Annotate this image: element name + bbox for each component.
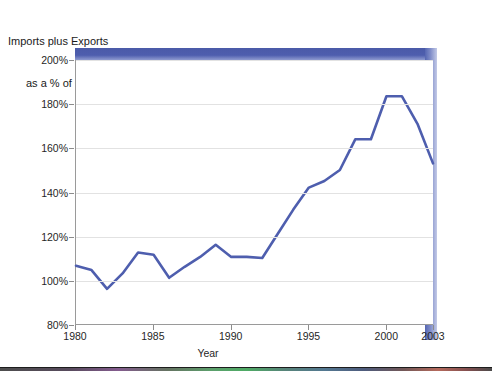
chart-plot-frame (75, 60, 433, 325)
y-axis-tick-label: 120% (4, 231, 68, 243)
x-axis-title-label: Year (197, 347, 218, 359)
x-axis-tick-label: 1985 (141, 330, 164, 342)
x-axis-tick-mark (75, 325, 76, 330)
y-axis: 80%100%120%140%160%180%200% (0, 60, 68, 325)
y-axis-tick-mark (69, 60, 74, 61)
x-axis-tick-label: 1995 (297, 330, 320, 342)
chart-title-line-1: Imports plus Exports (8, 34, 108, 48)
y-axis-tick-mark (69, 104, 74, 105)
gridline (76, 148, 433, 149)
y-axis-tick-mark (69, 325, 74, 326)
x-axis-tick-mark (386, 325, 387, 330)
y-axis-tick-mark (69, 193, 74, 194)
y-axis-tick-label: 100% (4, 275, 68, 287)
gridline (76, 237, 433, 238)
y-axis-tick-label: 200% (4, 54, 68, 66)
x-axis-tick-label: 2000 (375, 330, 398, 342)
y-axis-tick-mark (69, 148, 74, 149)
x-axis-tick-mark (231, 325, 232, 330)
x-axis-title: Year (0, 347, 492, 359)
y-axis-tick-mark (69, 237, 74, 238)
y-axis-tick-label: 180% (4, 98, 68, 110)
gridline (76, 281, 433, 282)
plot-frame-top-bar (75, 48, 437, 60)
x-axis: 198019851990199520002003 (0, 328, 492, 346)
y-axis-tick-label: 160% (4, 142, 68, 154)
gridline (76, 193, 433, 194)
gridline (76, 60, 433, 61)
y-axis-tick-label: 140% (4, 187, 68, 199)
bottom-color-strip (0, 368, 492, 371)
y-axis-tick-mark (69, 281, 74, 282)
x-axis-tick-mark (308, 325, 309, 330)
gridline (76, 104, 433, 105)
x-axis-tick-mark (153, 325, 154, 330)
plot-area (75, 60, 433, 325)
x-axis-tick-label: 1980 (63, 330, 86, 342)
x-axis-tick-label: 2003 (421, 330, 444, 342)
x-axis-tick-mark (433, 325, 434, 330)
x-axis-tick-label: 1990 (219, 330, 242, 342)
